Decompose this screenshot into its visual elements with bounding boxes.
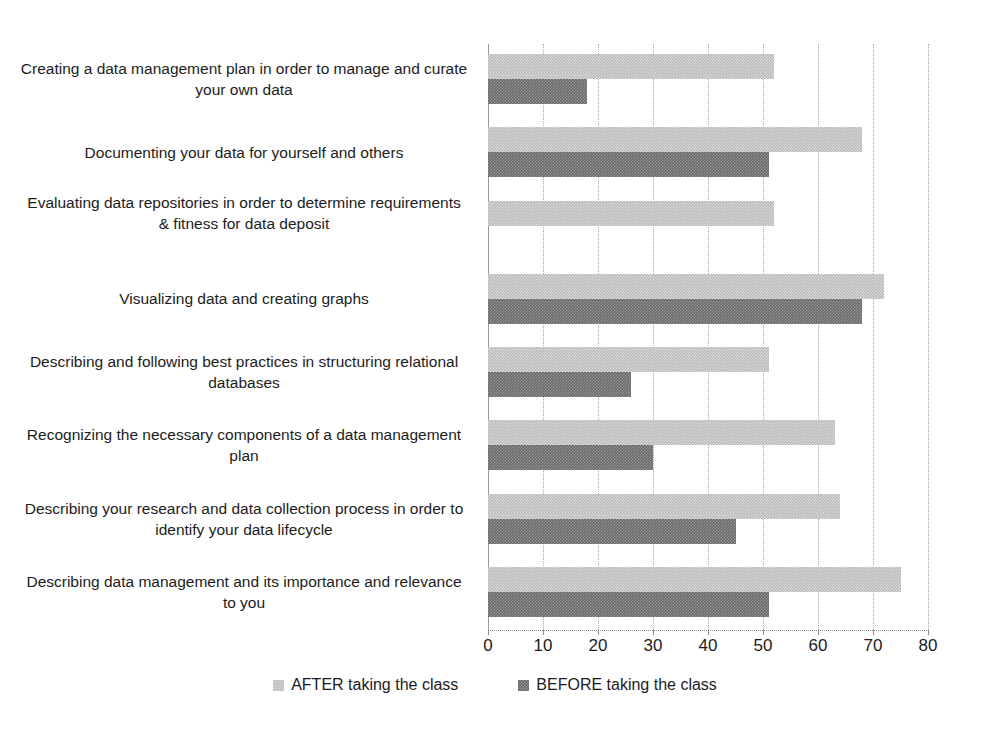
gridline-80 [928,44,929,630]
bar-before [488,372,631,397]
category-axis-labels: Creating a data management plan in order… [20,44,478,630]
category-label: Visualizing data and creating graphs [20,288,468,309]
bar-after [488,420,835,445]
x-tick-label: 50 [743,636,783,656]
legend-item[interactable]: BEFORE taking the class [518,676,717,694]
bar-after [488,201,774,226]
category-label: Describing your research and data collec… [20,498,468,540]
bar-after [488,567,901,592]
category-label: Documenting your data for yourself and o… [20,142,468,163]
bar-after [488,274,884,299]
bar-before [488,152,769,177]
chart-legend: AFTER taking the classBEFORE taking the … [0,676,990,694]
bar-after [488,494,840,519]
bar-group [488,557,928,630]
bar-group [488,264,928,337]
tick-mark-70 [873,630,874,635]
bar-before [488,592,769,617]
bar-after [488,347,769,372]
bar-before [488,299,862,324]
bar-group [488,337,928,410]
tick-mark-20 [598,630,599,635]
tick-mark-40 [708,630,709,635]
bar-after [488,127,862,152]
plot-area [488,44,928,630]
bar-before [488,519,736,544]
tick-mark-60 [818,630,819,635]
bar-before [488,79,587,104]
bar-group [488,410,928,483]
category-label: Evaluating data repositories in order to… [20,192,468,234]
legend-label: BEFORE taking the class [536,676,717,694]
x-tick-label: 70 [853,636,893,656]
x-tick-label: 10 [523,636,563,656]
tick-mark-30 [653,630,654,635]
x-tick-label: 40 [688,636,728,656]
tick-mark-80 [928,630,929,635]
x-tick-label: 60 [798,636,838,656]
tick-mark-50 [763,630,764,635]
tick-mark-10 [543,630,544,635]
category-label: Recognizing the necessary components of … [20,424,468,466]
bar-group [488,484,928,557]
x-tick-label: 20 [578,636,618,656]
category-label: Creating a data management plan in order… [20,58,468,100]
bar-group [488,117,928,190]
legend-label: AFTER taking the class [291,676,458,694]
tick-mark-0 [488,630,489,635]
bar-chart: 01020304050607080 Creating a data manage… [0,0,990,730]
legend-item[interactable]: AFTER taking the class [273,676,458,694]
x-tick-label: 80 [908,636,948,656]
bar-before [488,445,653,470]
x-tick-label: 0 [468,636,508,656]
bar-after [488,54,774,79]
bar-group [488,191,928,264]
bar-group [488,44,928,117]
x-tick-label: 30 [633,636,673,656]
legend-swatch-icon [273,680,284,691]
legend-swatch-icon [518,680,529,691]
category-label: Describing data management and its impor… [20,571,468,613]
category-label: Describing and following best practices … [20,351,468,393]
